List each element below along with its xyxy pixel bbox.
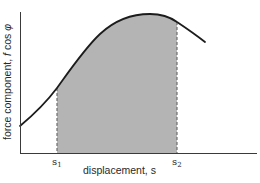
y-axis-label-text: force component, <box>1 56 13 140</box>
y-axis-label-cos: cos <box>1 31 13 53</box>
shaded-area-work <box>57 14 177 153</box>
work-diagram: force component, f cos φ s1 s2 displacem… <box>0 0 260 183</box>
s1-subscript: 1 <box>57 161 61 169</box>
s2-marker-label: s2 <box>172 156 182 169</box>
plot-canvas <box>0 0 260 183</box>
y-axis-label-f: f <box>1 53 13 56</box>
y-axis-label-phi: φ <box>1 24 13 31</box>
s1-marker-label: s1 <box>52 156 62 169</box>
x-axis-label: displacement, s <box>83 164 156 176</box>
y-axis-label: force component, f cos φ <box>1 24 13 140</box>
s2-subscript: 2 <box>177 161 181 169</box>
